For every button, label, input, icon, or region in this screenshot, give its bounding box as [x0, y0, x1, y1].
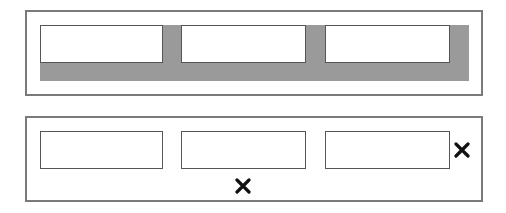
- bottom-box-2: [181, 131, 306, 169]
- bottom-box-3: [325, 131, 450, 169]
- top-box-3: [325, 25, 450, 63]
- x-mark-icon: [235, 178, 251, 194]
- x-mark-icon: [454, 142, 470, 158]
- top-box-2: [181, 25, 306, 63]
- bottom-box-1: [40, 131, 163, 169]
- top-box-1: [40, 25, 163, 63]
